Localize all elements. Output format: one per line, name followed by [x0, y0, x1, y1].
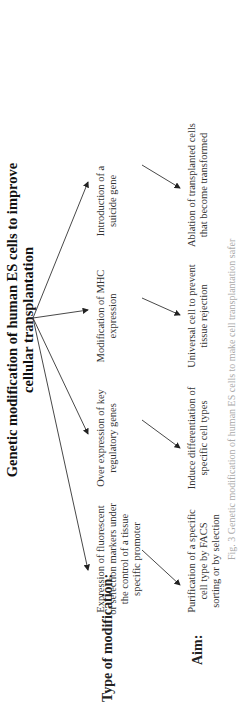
diagram-canvas: Genetic modification of human ES cells t…: [0, 0, 246, 710]
type-cell-mhc: Modification of MHC expression: [95, 266, 119, 366]
aim-cell-ablation: Ablation of transplanted cells that beco…: [186, 120, 210, 250]
aim-row-label: Aim:: [190, 635, 206, 665]
aim-cell-purification: Purification of a specific cell type by …: [186, 507, 222, 615]
main-arrows: [33, 182, 88, 570]
secondary-arrows: [142, 165, 180, 585]
type-cell-markers: Expression of fluorescent or selection m…: [95, 500, 143, 618]
aim-cell-differentiation: Induce differentiation of specific cell …: [186, 380, 210, 496]
type-cell-suicide-gene: Introduction of a suicide gene: [95, 154, 119, 248]
figure-caption: Fig. 3 Genetic modification of human ES …: [226, 239, 237, 560]
aim-cell-universal: Universal cell to prevent tissue rejecti…: [186, 260, 210, 372]
type-cell-regulatory-genes: Over expression of key regulatory genes: [95, 384, 119, 492]
